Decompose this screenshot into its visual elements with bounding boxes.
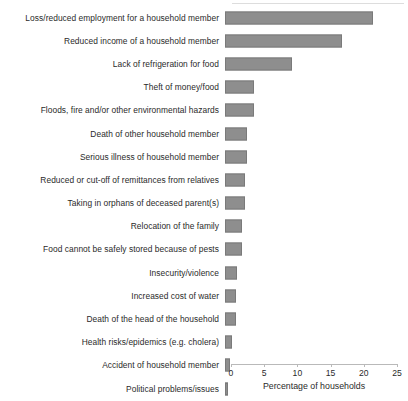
bar-track xyxy=(225,215,402,238)
x-axis-tick xyxy=(297,364,298,367)
bar xyxy=(225,382,228,395)
bar-category-label: Health risks/epidemics (e.g. cholera) xyxy=(0,337,225,347)
x-axis-tick xyxy=(231,364,232,367)
x-axis-tick xyxy=(331,364,332,367)
bar-row: Loss/reduced employment for a household … xyxy=(0,6,408,29)
bar-track xyxy=(225,238,402,261)
bar-category-label: Serious illness of household member xyxy=(0,152,225,162)
bar xyxy=(225,220,242,233)
bar-row: Lack of refrigeration for food xyxy=(0,52,408,75)
bar xyxy=(225,34,342,47)
bar-track xyxy=(225,122,402,145)
bar xyxy=(225,313,236,326)
bar-category-label: Insecurity/violence xyxy=(0,268,225,278)
bar xyxy=(225,11,373,24)
bar-track xyxy=(225,6,402,29)
horizontal-bar-chart: Loss/reduced employment for a household … xyxy=(0,0,408,401)
bar-row: Reduced or cut-off of remittances from r… xyxy=(0,168,408,191)
bar-row: Reduced income of a household member xyxy=(0,29,408,52)
x-axis-tick-label: 0 xyxy=(229,368,234,378)
x-axis-tick-label: 20 xyxy=(359,368,369,378)
x-axis-tick-label: 25 xyxy=(392,368,402,378)
bar-category-label: Political problems/issues xyxy=(0,384,225,394)
bar-row: Floods, fire and/or other environmental … xyxy=(0,99,408,122)
bar-category-label: Reduced or cut-off of remittances from r… xyxy=(0,175,225,185)
bar-category-label: Death of the head of the household xyxy=(0,314,225,324)
bar-track xyxy=(225,284,402,307)
x-axis-tick-label: 5 xyxy=(262,368,267,378)
bar-category-label: Floods, fire and/or other environmental … xyxy=(0,105,225,115)
bar-row: Death of the head of the household xyxy=(0,307,408,330)
bar-track xyxy=(225,76,402,99)
x-axis-tick xyxy=(264,364,265,367)
bar xyxy=(225,197,245,210)
bar-category-label: Food cannot be safely stored because of … xyxy=(0,244,225,254)
bar-rows-container: Loss/reduced employment for a household … xyxy=(0,6,408,400)
bar-track xyxy=(225,145,402,168)
x-axis-title: Percentage of households xyxy=(231,381,397,391)
bar xyxy=(225,289,236,302)
bar-category-label: Accident of household member xyxy=(0,360,225,370)
x-axis: 0510152025 xyxy=(231,364,397,365)
bar-category-label: Theft of money/food xyxy=(0,82,225,92)
bar-category-label: Lack of refrigeration for food xyxy=(0,59,225,69)
bar xyxy=(225,336,232,349)
x-axis-line xyxy=(231,364,397,365)
bar-category-label: Relocation of the family xyxy=(0,221,225,231)
bar-row: Serious illness of household member xyxy=(0,145,408,168)
bar-row: Insecurity/violence xyxy=(0,261,408,284)
x-axis-tick xyxy=(364,364,365,367)
bar-track xyxy=(225,192,402,215)
x-axis-tick-label: 15 xyxy=(326,368,336,378)
bar xyxy=(225,104,254,117)
bar-row: Taking in orphans of deceased parent(s) xyxy=(0,192,408,215)
x-axis-tick-label: 10 xyxy=(293,368,303,378)
scan-artifact xyxy=(232,3,404,4)
bar-track xyxy=(225,99,402,122)
bar xyxy=(225,173,245,186)
bar-track xyxy=(225,331,402,354)
bar-track xyxy=(225,29,402,52)
bar-track xyxy=(225,168,402,191)
bar-category-label: Reduced income of a household member xyxy=(0,36,225,46)
bar-track xyxy=(225,354,402,377)
bar xyxy=(225,81,254,94)
bar-row: Increased cost of water xyxy=(0,284,408,307)
bar-category-label: Taking in orphans of deceased parent(s) xyxy=(0,198,225,208)
bar-track xyxy=(225,307,402,330)
bar-category-label: Loss/reduced employment for a household … xyxy=(0,13,225,23)
bar-track xyxy=(225,261,402,284)
bar-row: Relocation of the family xyxy=(0,215,408,238)
bar-track xyxy=(225,52,402,75)
bar xyxy=(225,150,247,163)
bar-row: Food cannot be safely stored because of … xyxy=(0,238,408,261)
bar xyxy=(225,127,247,140)
bar xyxy=(225,266,237,279)
bar-row: Theft of money/food xyxy=(0,76,408,99)
bar-category-label: Increased cost of water xyxy=(0,291,225,301)
bar-row: Death of other household member xyxy=(0,122,408,145)
bar-category-label: Death of other household member xyxy=(0,129,225,139)
bar xyxy=(225,243,242,256)
bar xyxy=(225,57,292,70)
bar-row: Accident of household member xyxy=(0,354,408,377)
bar-row: Health risks/epidemics (e.g. cholera) xyxy=(0,331,408,354)
x-axis-tick xyxy=(397,364,398,367)
